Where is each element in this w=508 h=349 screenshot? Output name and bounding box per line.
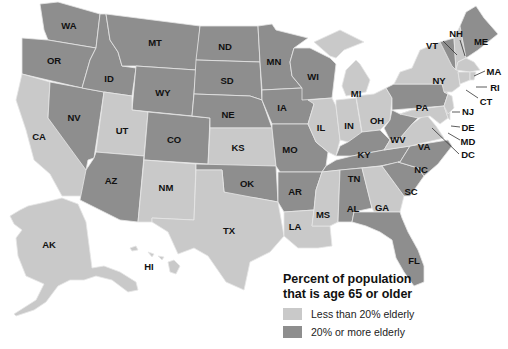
svg-text:MO: MO — [282, 144, 297, 155]
svg-text:MA: MA — [487, 66, 502, 77]
svg-text:TX: TX — [223, 225, 236, 236]
svg-text:DE: DE — [461, 122, 474, 133]
svg-text:GA: GA — [375, 202, 389, 213]
svg-text:AL: AL — [347, 203, 360, 214]
svg-text:OH: OH — [370, 115, 384, 126]
svg-text:MS: MS — [316, 209, 330, 220]
svg-text:NE: NE — [221, 109, 234, 120]
svg-text:OR: OR — [47, 55, 61, 66]
svg-text:TN: TN — [348, 173, 361, 184]
svg-text:IN: IN — [344, 120, 354, 131]
svg-text:FL: FL — [408, 255, 420, 266]
state-HI[interactable] — [130, 246, 180, 274]
svg-text:WI: WI — [307, 71, 319, 82]
svg-text:NM: NM — [159, 182, 174, 193]
svg-text:NH: NH — [449, 28, 463, 39]
svg-text:DC: DC — [461, 149, 475, 160]
svg-text:IL: IL — [317, 122, 326, 133]
state-AZ[interactable] — [80, 152, 144, 222]
svg-text:MD: MD — [461, 136, 476, 147]
svg-text:CA: CA — [32, 131, 46, 142]
svg-text:ME: ME — [474, 36, 488, 47]
svg-text:IA: IA — [277, 102, 287, 113]
svg-text:CT: CT — [480, 96, 493, 107]
legend-label-low: Less than 20% elderly — [311, 308, 414, 320]
svg-text:MN: MN — [267, 56, 282, 67]
state-CT[interactable] — [458, 72, 470, 84]
svg-text:NJ: NJ — [462, 106, 474, 117]
svg-text:PA: PA — [416, 102, 429, 113]
svg-text:WV: WV — [390, 134, 406, 145]
svg-text:MI: MI — [351, 88, 362, 99]
svg-text:WA: WA — [61, 20, 76, 31]
svg-text:MT: MT — [148, 37, 162, 48]
state-ME[interactable] — [460, 6, 498, 58]
svg-text:NC: NC — [414, 164, 428, 175]
svg-text:VA: VA — [418, 141, 431, 152]
svg-text:LA: LA — [289, 221, 302, 232]
state-RI[interactable] — [470, 72, 476, 80]
legend-title-line1: Percent of population — [283, 272, 414, 287]
svg-text:NY: NY — [432, 75, 446, 86]
svg-text:KS: KS — [231, 142, 244, 153]
svg-text:SC: SC — [404, 186, 417, 197]
svg-text:ID: ID — [104, 73, 114, 84]
legend-title-line2: that is age 65 or older — [283, 287, 414, 302]
svg-text:ND: ND — [218, 41, 232, 52]
legend-label-high: 20% or more elderly — [311, 326, 405, 338]
legend-item-high: 20% or more elderly — [283, 326, 414, 338]
svg-text:AZ: AZ — [105, 175, 118, 186]
svg-text:AK: AK — [42, 239, 56, 250]
svg-text:SD: SD — [220, 75, 233, 86]
us-map: WA OR CA NV ID MT WY UT AZ CO NM ND SD N… — [0, 0, 508, 349]
svg-text:VT: VT — [426, 40, 438, 51]
legend-swatch-low — [283, 308, 302, 320]
svg-text:UT: UT — [116, 125, 129, 136]
svg-text:AR: AR — [288, 186, 302, 197]
svg-text:OK: OK — [240, 178, 254, 189]
svg-text:CO: CO — [167, 134, 181, 145]
svg-text:RI: RI — [490, 82, 500, 93]
svg-text:HI: HI — [144, 261, 154, 272]
legend-swatch-high — [283, 326, 302, 338]
svg-text:NV: NV — [67, 112, 81, 123]
svg-text:WY: WY — [155, 87, 171, 98]
svg-text:KY: KY — [357, 149, 371, 160]
legend-item-low: Less than 20% elderly — [283, 308, 414, 320]
legend: Percent of population that is age 65 or … — [283, 272, 414, 338]
